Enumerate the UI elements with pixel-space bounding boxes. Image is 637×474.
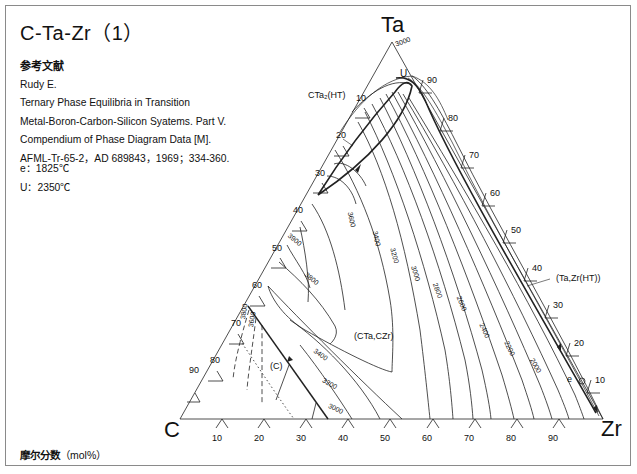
isotherm-2200 <box>403 94 569 419</box>
tick-bottom: 10 <box>212 433 222 443</box>
tick-right: 60 <box>490 188 500 198</box>
vertex-zr: Zr <box>601 416 622 442</box>
isotherm-3400-lower <box>268 286 402 419</box>
tick-bottom: 40 <box>338 433 348 443</box>
point-label-u: U <box>400 68 407 79</box>
vertex-c: C <box>164 417 180 443</box>
phase-label-cta2: CTa₂(HT) <box>308 90 346 100</box>
phase-label-ctazr: (CTa,CZr) <box>354 331 394 341</box>
isotherm-3600-left <box>312 204 345 310</box>
bottom-ticks <box>216 419 565 428</box>
vertex-ta: Ta <box>381 12 404 38</box>
tick-bottom: 80 <box>506 433 516 443</box>
tick-right: 10 <box>595 375 605 385</box>
tick-left: 60 <box>252 280 262 290</box>
isotherm-3400-upper <box>358 122 430 419</box>
tick-right: 30 <box>553 300 563 310</box>
isotherm-2000 <box>409 98 584 419</box>
tick-left: 10 <box>356 93 366 103</box>
isotherm-2600 <box>392 92 534 419</box>
tick-left: 80 <box>210 355 220 365</box>
tick-left: 90 <box>189 365 199 375</box>
tick-right: 20 <box>574 338 584 348</box>
tick-bottom: 20 <box>254 433 264 443</box>
triangle-outline <box>180 42 603 419</box>
arrow-icon <box>287 356 293 362</box>
tick-bottom: 90 <box>548 433 558 443</box>
phase-label-tazr: (Ta,Zr(HT)) <box>556 273 601 283</box>
tick-bottom: 70 <box>464 433 474 443</box>
tick-bottom: 30 <box>296 433 306 443</box>
point-label-e: e <box>567 374 572 384</box>
tick-right: 50 <box>511 225 521 235</box>
tick-left: 20 <box>336 130 346 140</box>
tick-bottom: 60 <box>422 433 432 443</box>
tick-left: 40 <box>293 205 303 215</box>
tick-left: 30 <box>315 168 325 178</box>
monovariant-line-left <box>248 306 328 419</box>
tick-right: 70 <box>469 150 479 160</box>
phase-label-carbon: (C) <box>270 361 283 371</box>
tick-left: 70 <box>231 318 241 328</box>
tick-left: 50 <box>272 243 282 253</box>
tick-right: 40 <box>532 263 542 273</box>
tick-bottom: 50 <box>380 433 390 443</box>
isotherm-2400 <box>398 92 552 419</box>
ternary-diagram <box>0 0 637 474</box>
tick-right: 80 <box>448 113 458 123</box>
tick-right: 90 <box>427 75 437 85</box>
